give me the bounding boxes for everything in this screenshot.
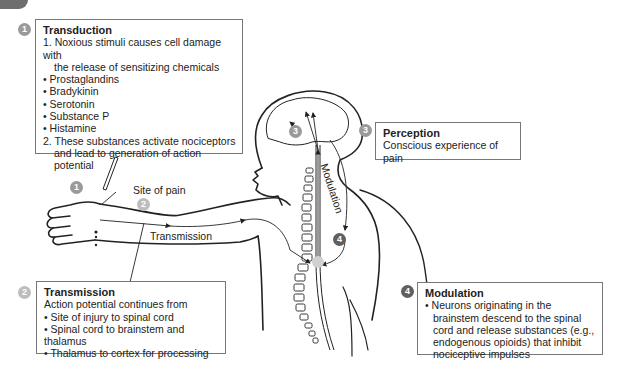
spine-badge-4: 4 [333, 233, 346, 246]
transduction-line-1b: the release of sensitizing chemicals [43, 61, 236, 73]
transduction-line-2b: and lead to generation of action potenti… [43, 147, 236, 172]
transmission-item: • Thalamus to cortex for processing [44, 347, 219, 359]
transmission-item: • Site of injury to spinal cord [44, 311, 219, 323]
transduction-box: Transduction 1. Noxious stimuli causes c… [35, 19, 243, 154]
transduction-title: Transduction [43, 24, 236, 36]
modulation-box: Modulation • Neurons originating in the … [417, 282, 603, 355]
perception-title: Perception [383, 127, 514, 139]
transmission-title: Transmission [44, 286, 219, 298]
chemical-item: • Serotonin [43, 98, 236, 110]
step-badge-transduction: 1 [18, 23, 31, 36]
perception-box: Perception Conscious experience of pain [375, 122, 521, 160]
modulation-text: • Neurons originating in the brainstem d… [425, 299, 596, 360]
transmission-box: Transmission Action potential continues … [36, 281, 226, 354]
site-of-pain-label: Site of pain [133, 184, 186, 196]
chemical-item: • Prostaglandins [43, 73, 236, 85]
step-badge-modulation: 4 [401, 285, 414, 298]
chemical-item: • Bradykinin [43, 85, 236, 97]
chemical-item: • Substance P [43, 110, 236, 122]
chemical-item: • Histamine [43, 122, 236, 134]
chemical-list: • Prostaglandins • Bradykinin • Serotoni… [43, 73, 236, 134]
step-badge-transmission: 2 [18, 286, 31, 299]
perception-text: Conscious experience of pain [383, 139, 514, 164]
transmission-list: • Site of injury to spinal cord • Spinal… [44, 311, 219, 360]
transmission-item: • Spinal cord to brainstem and thalamus [44, 323, 219, 348]
arm-badge-1: 1 [70, 181, 83, 194]
transduction-line-1a: 1. Noxious stimuli causes cell damage wi… [43, 36, 236, 61]
modulation-title: Modulation [425, 287, 596, 299]
brain-badge-3: 3 [289, 125, 302, 138]
transmission-arrow-label: Transmission [150, 230, 212, 242]
step-badge-perception: 3 [359, 124, 372, 137]
arm-badge-2: 2 [137, 198, 150, 211]
transmission-intro: Action potential continues from [44, 298, 219, 310]
transduction-line-2a: 2. These substances activate nociceptors [43, 135, 236, 147]
